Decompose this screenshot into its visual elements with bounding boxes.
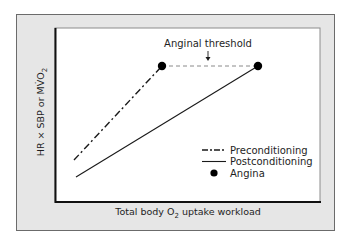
x-axis-label-post: uptake workload: [179, 206, 261, 217]
angina-point-preconditioning: [158, 62, 166, 70]
x-axis-label: Total body O2 uptake workload: [114, 206, 261, 220]
legend-postconditioning-label: Postconditioning: [230, 156, 313, 167]
plot-area: [55, 28, 320, 202]
x-axis-label-pre: Total body O: [114, 206, 174, 217]
legend-angina-dot-icon: [210, 169, 217, 176]
y-axis-label: HR × SBP or MV̇O2: [35, 68, 49, 156]
angina-point-postconditioning: [254, 62, 262, 70]
y-axis-label-subscript: 2: [41, 68, 49, 72]
y-axis-label-pre: HR × SBP or MV̇O: [35, 72, 46, 156]
chart: Anginal threshold Preconditioning Postco…: [0, 0, 347, 239]
anginal-threshold-label: Anginal threshold: [164, 38, 252, 49]
legend-preconditioning-label: Preconditioning: [230, 145, 308, 156]
legend-angina-label: Angina: [230, 168, 265, 179]
